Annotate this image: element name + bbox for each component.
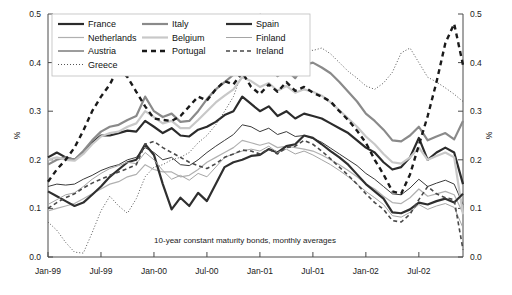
chart-container: 0.00.00.10.10.20.20.30.30.40.40.50.5Jan-…: [0, 0, 512, 295]
x-tick-label: Jan-99: [35, 266, 61, 276]
legend-label-greece: Greece: [88, 60, 118, 70]
legend-label-italy: Italy: [172, 19, 189, 29]
legend-label-france: France: [88, 19, 116, 29]
x-tick-label: Jul-02: [407, 266, 430, 276]
y-tick-label-right: 0.5: [470, 9, 482, 19]
y-tick-label-right: 0.2: [470, 155, 482, 165]
y-axis-title-left: %: [12, 131, 22, 139]
bond-spread-line-chart: 0.00.00.10.10.20.20.30.30.40.40.50.5Jan-…: [0, 0, 512, 295]
y-tick-label-right: 0.1: [470, 203, 482, 213]
y-tick-label-right: 0.3: [470, 106, 482, 116]
legend-label-finland: Finland: [256, 33, 286, 43]
legend-group: FranceItalySpainNetherlandsBelgiumFinlan…: [52, 14, 310, 76]
y-tick-label-left: 0.5: [29, 9, 41, 19]
x-tick-label: Jul-00: [195, 266, 218, 276]
legend-label-ireland: Ireland: [256, 46, 284, 56]
y-tick-label-right: 0.4: [470, 58, 482, 68]
legend-label-spain: Spain: [256, 19, 279, 29]
x-tick-label: Jan-01: [247, 266, 273, 276]
y-axis-title-right: %: [484, 131, 494, 139]
x-tick-label: Jul-01: [301, 266, 324, 276]
legend-label-belgium: Belgium: [172, 33, 205, 43]
y-tick-label-left: 0.1: [29, 203, 41, 213]
chart-annotation: 10-year constant maturity bonds, monthly…: [154, 236, 336, 245]
legend-label-netherlands: Netherlands: [88, 33, 137, 43]
x-tick-label: Jan-02: [353, 266, 379, 276]
x-tick-label: Jul-99: [89, 266, 112, 276]
legend-label-austria: Austria: [88, 46, 116, 56]
y-tick-label-left: 0.4: [29, 58, 41, 68]
legend-label-portugal: Portugal: [172, 46, 206, 56]
y-tick-label-left: 0.2: [29, 155, 41, 165]
y-tick-label-left: 0.3: [29, 106, 41, 116]
x-tick-label: Jan-00: [141, 266, 167, 276]
y-tick-label-left: 0.0: [29, 252, 41, 262]
y-tick-label-right: 0.0: [470, 252, 482, 262]
